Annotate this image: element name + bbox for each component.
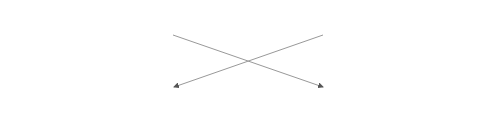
shuffle-arrows (0, 0, 496, 140)
